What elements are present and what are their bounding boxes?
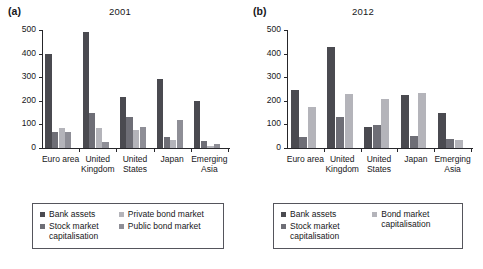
- x-category-label: Emerging Asia: [428, 154, 477, 174]
- bar: [59, 128, 65, 148]
- y-tick-mark: [284, 148, 287, 149]
- bar: [83, 32, 89, 148]
- bar: [45, 54, 51, 148]
- legend-item: Bank assets: [40, 209, 112, 219]
- legend-item-label: Bank assets: [49, 209, 95, 219]
- bar: [455, 140, 463, 148]
- bar: [102, 142, 108, 148]
- y-tick-label: 400: [10, 48, 36, 58]
- legend-item: Private bond market: [119, 209, 217, 219]
- bar: [126, 117, 132, 148]
- legend-b: Bank assetsStock market capitalisationBo…: [273, 203, 463, 249]
- legend-column-right: Bond market capitalisation: [372, 209, 456, 241]
- panel-b: (b) 2012 0100200300400500Euro areaUnited…: [241, 0, 482, 269]
- legend-item: Stock market capitalisation: [40, 221, 112, 241]
- x-tick-mark: [434, 149, 435, 152]
- legend-item-label: Bank assets: [290, 209, 336, 219]
- x-tick-mark: [471, 149, 472, 152]
- figure-root: { "figure": { "panels": [ { "label": "(a…: [0, 0, 483, 269]
- legend-column-left: Bank assetsStock market capitalisation: [40, 209, 112, 241]
- legend-swatch-icon: [119, 212, 124, 217]
- y-tick-label: 100: [255, 118, 281, 128]
- bar: [214, 144, 220, 148]
- bar: [52, 132, 58, 148]
- bar: [133, 130, 139, 148]
- legend-swatch-icon: [281, 224, 286, 229]
- legend-swatch-icon: [281, 212, 286, 217]
- legend-item: Public bond market: [119, 221, 217, 231]
- x-tick-mark: [116, 149, 117, 152]
- bar: [364, 127, 372, 148]
- legend-column-left: Bank assetsStock market capitalisation: [281, 209, 365, 241]
- bar: [381, 99, 389, 148]
- y-tick-label: 200: [10, 95, 36, 105]
- bar: [207, 146, 213, 148]
- bar: [177, 120, 183, 148]
- legend-item: Stock market capitalisation: [281, 221, 365, 241]
- legend-column-right: Private bond marketPublic bond market: [119, 209, 217, 241]
- bar: [194, 101, 200, 148]
- plot-area-b: 0100200300400500Euro areaUnited KingdomU…: [279, 24, 473, 172]
- bar: [438, 113, 446, 148]
- legend-a: Bank assetsStock market capitalisationPr…: [32, 203, 224, 249]
- y-tick-label: 200: [255, 95, 281, 105]
- y-tick-label: 0: [10, 142, 36, 152]
- legend-swatch-icon: [119, 224, 124, 229]
- y-tick-mark: [284, 54, 287, 55]
- bar: [373, 125, 381, 148]
- bar: [65, 132, 71, 148]
- panel-a-label: (a): [8, 5, 21, 17]
- bar: [201, 141, 207, 148]
- y-tick-mark: [39, 148, 42, 149]
- y-tick-label: 300: [10, 71, 36, 81]
- x-category-label: Emerging Asia: [185, 154, 234, 174]
- bar: [140, 127, 146, 148]
- panel-b-label: (b): [253, 5, 267, 17]
- legend-item: Bank assets: [281, 209, 365, 219]
- x-axis-line: [42, 148, 230, 149]
- bar: [446, 139, 454, 148]
- x-tick-mark: [191, 149, 192, 152]
- x-tick-mark: [397, 149, 398, 152]
- bar: [345, 94, 353, 148]
- y-axis-line: [42, 30, 43, 149]
- y-tick-mark: [284, 30, 287, 31]
- page-bottom-strip: [0, 265, 483, 269]
- x-tick-mark: [154, 149, 155, 152]
- bar: [308, 107, 316, 148]
- bar: [299, 137, 307, 148]
- x-tick-mark: [361, 149, 362, 152]
- bar: [401, 95, 409, 148]
- y-tick-label: 500: [255, 24, 281, 34]
- y-axis-line: [287, 30, 288, 149]
- y-tick-mark: [284, 77, 287, 78]
- y-tick-label: 100: [10, 118, 36, 128]
- x-tick-mark: [228, 149, 229, 152]
- panel-a-title: 2001: [60, 6, 180, 17]
- x-tick-mark: [324, 149, 325, 152]
- bar: [157, 79, 163, 148]
- bar: [327, 47, 335, 148]
- y-tick-mark: [39, 124, 42, 125]
- y-tick-mark: [39, 30, 42, 31]
- bar: [291, 90, 299, 148]
- y-tick-label: 400: [255, 48, 281, 58]
- y-tick-label: 0: [255, 142, 281, 152]
- y-tick-mark: [284, 101, 287, 102]
- bar: [96, 128, 102, 148]
- y-tick-mark: [39, 101, 42, 102]
- x-axis-line: [287, 148, 473, 149]
- panel-a: (a) 2001 0100200300400500Euro areaUnited…: [0, 0, 241, 269]
- bar: [410, 136, 418, 148]
- y-tick-label: 300: [255, 71, 281, 81]
- legend-item-label: Stock market capitalisation: [290, 221, 340, 241]
- x-tick-mark: [79, 149, 80, 152]
- y-tick-mark: [39, 54, 42, 55]
- bar: [89, 113, 95, 148]
- bar: [418, 93, 426, 148]
- legend-item: Bond market capitalisation: [372, 209, 456, 229]
- y-tick-mark: [39, 77, 42, 78]
- panel-b-title: 2012: [303, 6, 423, 17]
- legend-swatch-icon: [40, 212, 45, 217]
- bar: [164, 137, 170, 148]
